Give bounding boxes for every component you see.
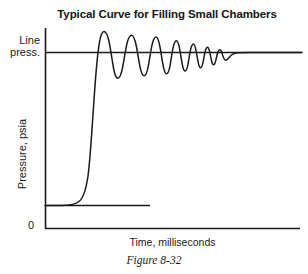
plot-area (0, 0, 308, 274)
pressure-curve (45, 32, 302, 206)
figure-container: Typical Curve for Filling Small Chambers… (0, 0, 308, 274)
